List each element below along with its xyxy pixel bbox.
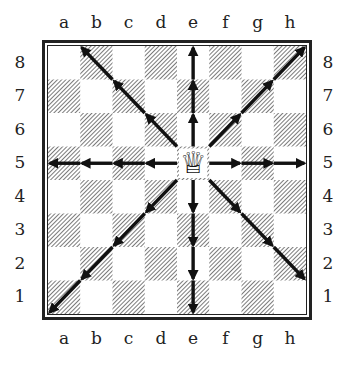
square-f2 (209, 247, 242, 281)
square-d7 (145, 80, 178, 114)
square-c4 (113, 180, 146, 214)
square-c8 (113, 46, 146, 80)
square-a8 (48, 46, 81, 80)
file-label-g: g (248, 330, 268, 347)
file-label-h: h (280, 330, 300, 347)
square-f7 (209, 80, 242, 114)
square-h3 (274, 214, 306, 248)
file-label-b: b (86, 14, 106, 31)
square-b3 (80, 214, 113, 248)
file-label-a: a (54, 330, 74, 347)
chessboard: ♕ (48, 46, 306, 314)
square-g1 (242, 281, 275, 315)
square-f3 (209, 214, 242, 248)
square-d8 (145, 46, 178, 80)
rank-label-7: 7 (318, 87, 338, 104)
rank-label-8: 8 (318, 54, 338, 71)
square-f1 (209, 281, 242, 315)
rank-label-1: 1 (10, 288, 30, 305)
file-label-h: h (280, 14, 300, 31)
rank-label-5: 5 (318, 154, 338, 171)
square-h4 (274, 180, 306, 214)
square-f8 (209, 46, 242, 80)
square-d3 (145, 214, 178, 248)
square-a6 (48, 113, 81, 147)
square-g6 (242, 113, 275, 147)
square-a3 (48, 214, 81, 248)
square-c2 (113, 247, 146, 281)
rank-label-1: 1 (318, 288, 338, 305)
rank-label-8: 8 (10, 54, 30, 71)
square-h1 (274, 281, 306, 315)
square-c1 (113, 281, 146, 315)
square-b4 (80, 180, 113, 214)
square-g4 (242, 180, 275, 214)
rank-label-3: 3 (10, 221, 30, 238)
file-label-f: f (215, 330, 235, 347)
file-label-e: e (183, 330, 203, 347)
rank-label-6: 6 (10, 121, 30, 138)
rank-label-6: 6 (318, 121, 338, 138)
square-a4 (48, 180, 81, 214)
file-label-e: e (183, 14, 203, 31)
square-h7 (274, 80, 306, 114)
rank-label-2: 2 (10, 255, 30, 272)
square-b7 (80, 80, 113, 114)
square-b6 (80, 113, 113, 147)
square-c6 (113, 113, 146, 147)
rank-label-7: 7 (10, 87, 30, 104)
square-b1 (80, 281, 113, 315)
file-label-c: c (119, 330, 139, 347)
square-g8 (242, 46, 275, 80)
rank-label-2: 2 (318, 255, 338, 272)
square-g2 (242, 247, 275, 281)
square-d2 (145, 247, 178, 281)
file-label-g: g (248, 14, 268, 31)
queen-piece: ♕ (179, 145, 207, 180)
file-label-d: d (151, 14, 171, 31)
file-label-a: a (54, 14, 74, 31)
rank-label-4: 4 (318, 188, 338, 205)
file-label-b: b (86, 330, 106, 347)
square-h6 (274, 113, 306, 147)
file-label-d: d (151, 330, 171, 347)
square-a7 (48, 80, 81, 114)
rank-label-5: 5 (10, 154, 30, 171)
square-a2 (48, 247, 81, 281)
rank-label-3: 3 (318, 221, 338, 238)
square-d1 (145, 281, 178, 315)
rank-label-4: 4 (10, 188, 30, 205)
file-label-c: c (119, 14, 139, 31)
file-label-f: f (215, 14, 235, 31)
queen-icon: ♕ (180, 145, 207, 180)
